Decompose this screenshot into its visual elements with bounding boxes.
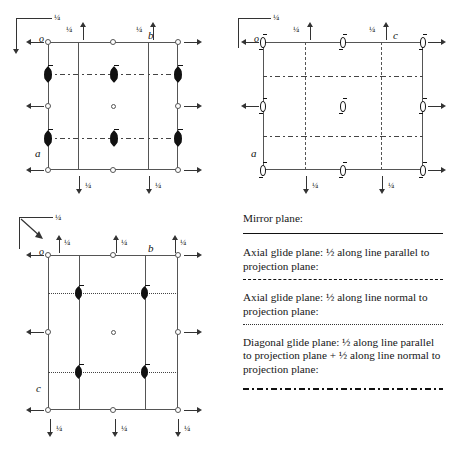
lattice-point bbox=[45, 329, 51, 335]
lattice-point bbox=[110, 407, 116, 413]
corner-diagonal-arrow-3 bbox=[19, 217, 49, 245]
up-arrow bbox=[56, 235, 63, 253]
glide-line-v2b bbox=[381, 42, 382, 170]
left-arrow bbox=[26, 103, 44, 110]
right-arrow bbox=[428, 167, 446, 174]
left-arrow bbox=[26, 252, 44, 259]
top-quarter-label: ¼ bbox=[66, 25, 72, 34]
glide-line-v1b bbox=[148, 42, 149, 170]
lattice-point-center bbox=[111, 330, 116, 335]
lattice-point bbox=[175, 103, 181, 109]
corner-quarter-label-1: ¼ bbox=[54, 13, 60, 22]
legend-rule-mirror-plane bbox=[243, 233, 443, 234]
lattice-point bbox=[45, 167, 51, 173]
screw-axis-open-symbol bbox=[339, 34, 347, 50]
lattice-point bbox=[110, 167, 116, 173]
left-arrow bbox=[241, 39, 259, 46]
glide-line-v3a bbox=[79, 255, 80, 410]
legend-label-axial-glide-parallel: Axial glide plane: ½ along line parallel… bbox=[243, 246, 443, 273]
up-arrow bbox=[383, 22, 390, 40]
glide-line-v1a bbox=[78, 42, 79, 170]
screw-axis-open-symbol bbox=[339, 162, 347, 178]
screw-axis-tail bbox=[145, 285, 150, 286]
dotted-line-3a bbox=[48, 293, 178, 294]
screw-axis-open-symbol bbox=[259, 34, 267, 50]
right-arrow bbox=[184, 103, 202, 110]
diagram-top-right: ¼ o c a ¼ ¼ ¼ ¼ bbox=[235, 0, 462, 210]
up-arrow bbox=[113, 235, 120, 253]
up-arrow bbox=[150, 22, 157, 40]
screw-axis-tail bbox=[48, 129, 53, 130]
axis-label-b-3: b bbox=[148, 243, 154, 254]
legend-label-mirror-plane: Mirror plane: bbox=[243, 212, 443, 225]
right-arrow bbox=[184, 252, 202, 259]
lattice-point bbox=[175, 39, 181, 45]
lattice-point bbox=[175, 329, 181, 335]
diagram-top-left: ¼ o b a ¼ bbox=[0, 0, 231, 210]
bottom-quarter-label: ¼ bbox=[56, 424, 62, 433]
top-quarter-label: ¼ bbox=[64, 238, 70, 247]
screw-axis-tail bbox=[178, 65, 183, 66]
screw-axis-tail bbox=[114, 129, 119, 130]
bottom-quarter-label: ¼ bbox=[155, 181, 161, 190]
right-arrow bbox=[184, 407, 202, 414]
screw-axis-tail bbox=[48, 65, 53, 66]
screw-axis-open-symbol bbox=[419, 162, 427, 178]
down-arrow bbox=[303, 176, 310, 194]
left-arrow bbox=[26, 39, 44, 46]
screw-axis-tail bbox=[114, 65, 119, 66]
down-arrow bbox=[112, 419, 119, 437]
corner-quarter-label-3: ¼ bbox=[55, 213, 61, 222]
screw-axis-tail bbox=[79, 285, 84, 286]
legend-label-axial-glide-normal: Axial glide plane: ½ along line normal t… bbox=[243, 291, 443, 318]
legend-rule-diagonal-glide bbox=[243, 388, 443, 390]
dashdot-line-2a bbox=[263, 76, 423, 77]
legend-rule-axial-glide-parallel bbox=[243, 279, 443, 280]
screw-axis-open-symbol bbox=[259, 162, 267, 178]
down-arrow bbox=[175, 419, 182, 437]
legend-entry-axial-glide-normal: Axial glide plane: ½ along line normal t… bbox=[243, 291, 443, 325]
screw-axis-tail bbox=[79, 364, 84, 365]
diagram-bottom-left: ¼ o b c ¼ ¼ ¼ bbox=[0, 205, 231, 464]
left-arrow bbox=[26, 167, 44, 174]
axis-label-a-2: a bbox=[251, 148, 257, 159]
right-arrow bbox=[428, 103, 446, 110]
lattice-point bbox=[45, 252, 51, 258]
axis-label-a-1: a bbox=[35, 148, 41, 159]
lattice-point bbox=[175, 407, 181, 413]
left-arrow bbox=[26, 329, 44, 336]
left-arrow bbox=[26, 407, 44, 414]
legend-entry-mirror-plane: Mirror plane: bbox=[243, 212, 443, 234]
up-arrow bbox=[80, 22, 87, 40]
glide-line-v2a bbox=[305, 42, 306, 170]
bottom-quarter-label: ¼ bbox=[184, 424, 190, 433]
right-arrow bbox=[184, 167, 202, 174]
screw-axis-open-symbol bbox=[259, 98, 267, 114]
lattice-point bbox=[45, 103, 51, 109]
glide-line-v3b bbox=[145, 255, 146, 410]
top-quarter-label: ¼ bbox=[180, 238, 186, 247]
dotted-line-3b bbox=[48, 372, 178, 373]
legend-entry-axial-glide-parallel: Axial glide plane: ½ along line parallel… bbox=[243, 246, 443, 280]
lattice-point bbox=[45, 39, 51, 45]
lattice-point bbox=[110, 39, 116, 45]
bottom-quarter-label: ¼ bbox=[312, 181, 318, 190]
right-arrow bbox=[428, 39, 446, 46]
legend-entry-diagonal-glide: Diagonal glide plane: ½ along line paral… bbox=[243, 336, 443, 390]
down-arrow bbox=[379, 176, 386, 194]
top-quarter-label: ¼ bbox=[136, 25, 142, 34]
lattice-point-center bbox=[111, 104, 116, 109]
legend-label-diagonal-glide: Diagonal glide plane: ½ along line paral… bbox=[243, 336, 443, 376]
bottom-quarter-label: ¼ bbox=[121, 424, 127, 433]
corner-down-arrow-1 bbox=[13, 36, 20, 54]
left-arrow bbox=[241, 103, 259, 110]
top-quarter-label: ¼ bbox=[293, 25, 299, 34]
legend-rule-axial-glide-normal bbox=[243, 324, 443, 325]
axis-label-c-2: c bbox=[393, 30, 398, 41]
bottom-quarter-label: ¼ bbox=[85, 181, 91, 190]
lattice-point bbox=[175, 167, 181, 173]
down-arrow bbox=[146, 176, 153, 194]
up-arrow bbox=[172, 235, 179, 253]
lattice-point bbox=[45, 407, 51, 413]
down-arrow bbox=[47, 419, 54, 437]
